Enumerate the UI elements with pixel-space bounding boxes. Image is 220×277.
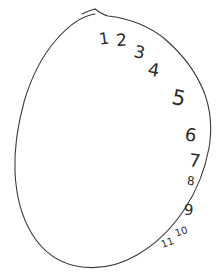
pen-start-tail-path: [82, 9, 95, 14]
numeral-7: 7: [188, 151, 201, 170]
numeral-2: 2: [115, 32, 127, 50]
numeral-8: 8: [187, 175, 195, 188]
numeral-9: 9: [184, 203, 194, 218]
drawing-canvas: 1234567891011: [0, 0, 220, 277]
numeral-1: 1: [98, 30, 110, 47]
